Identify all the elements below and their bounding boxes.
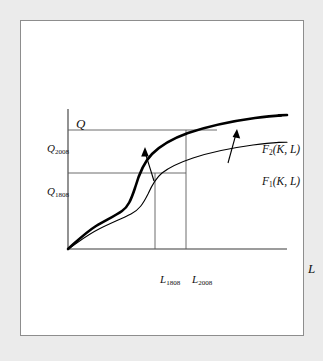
- x-axis-label: L: [308, 262, 315, 275]
- x-tick-label-l-1808: L1808: [160, 274, 180, 285]
- y-tick-q-2008-sub: 2008: [55, 148, 69, 156]
- x-tick-label-l-2008: L2008: [192, 274, 212, 285]
- curve-f1: [68, 142, 279, 249]
- curve-label-f2-name: F: [262, 143, 269, 155]
- curve-label-f2: F2(K, L): [262, 144, 300, 156]
- y-tick-label-q-2008: Q2008: [47, 143, 69, 154]
- y-tick-q-1808-sub: 1808: [55, 191, 69, 199]
- y-tick-q-1808-main: Q: [47, 185, 55, 197]
- curve-label-f1-name: F: [262, 175, 269, 187]
- shift-arrow-right: [228, 129, 240, 163]
- figure-frame: Q L Q2008 Q1808 L1808 L2008 F2(K, L) F1(…: [20, 20, 304, 336]
- curve-label-f1-args: (K, L): [273, 175, 300, 187]
- curve-label-f2-sub: 2: [269, 148, 273, 157]
- y-tick-q-2008-main: Q: [47, 142, 55, 154]
- x-tick-l-1808-sub: 1808: [166, 279, 180, 287]
- y-tick-label-q-1808: Q1808: [47, 186, 69, 197]
- curve-label-f2-args: (K, L): [273, 143, 300, 155]
- production-function-plot: [21, 21, 303, 335]
- curve-label-f1-sub: 1: [269, 180, 273, 189]
- curve-label-f1: F1(K, L): [262, 176, 300, 188]
- x-tick-l-2008-sub: 2008: [198, 279, 212, 287]
- y-axis-label: Q: [76, 117, 85, 130]
